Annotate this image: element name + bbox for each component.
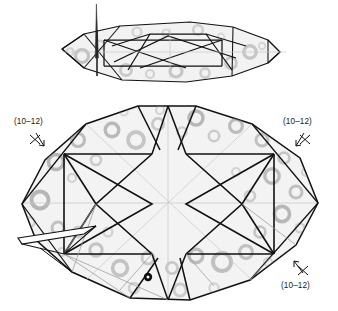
reference-dot-core [147, 276, 150, 279]
crystal-diagram-svg [0, 0, 338, 311]
label-bottom-right: (10–12) [281, 281, 310, 290]
direction-marker-top-right [296, 133, 310, 146]
label-top-left: (10–12) [14, 117, 43, 126]
diagram-canvas: (10–12) (10–12) (10–12) [0, 0, 338, 311]
direction-marker-top-left [30, 133, 44, 146]
label-top-right: (10–12) [283, 117, 312, 126]
main-view-group [18, 106, 318, 300]
direction-marker-bottom-right [294, 261, 308, 275]
top-view-group [62, 4, 286, 82]
